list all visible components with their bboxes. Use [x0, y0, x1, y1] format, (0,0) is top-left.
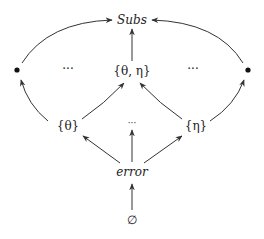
- node-eta: {η}: [185, 119, 207, 133]
- node-theta: {θ}: [57, 119, 80, 133]
- node-left-dot: [14, 67, 19, 72]
- edge-eta-to-right-dot: [210, 80, 244, 121]
- edge-theta-to-left-dot: [21, 80, 48, 121]
- edge-right-dot-to-top: [152, 20, 243, 63]
- lattice-diagram: Subs ··· {θ, η} ··· {θ} ··· {η} error ∅: [0, 0, 264, 239]
- edge-theta-to-theta-eta: [82, 83, 124, 119]
- node-subs: Subs: [117, 13, 147, 27]
- node-error: error: [116, 165, 149, 179]
- node-left-ellipsis: ···: [62, 62, 73, 76]
- edge-error-to-eta: [144, 136, 182, 163]
- node-theta-eta: {θ, η}: [113, 64, 150, 78]
- edge-error-to-theta: [83, 136, 120, 163]
- edge-left-dot-to-top: [22, 20, 112, 63]
- edges: [21, 20, 244, 210]
- node-right-ellipsis: ···: [187, 62, 198, 76]
- node-mid-ellipsis: ···: [128, 118, 137, 128]
- node-empty-set: ∅: [127, 213, 137, 227]
- edge-eta-to-theta-eta: [140, 83, 182, 119]
- node-right-dot: [245, 67, 250, 72]
